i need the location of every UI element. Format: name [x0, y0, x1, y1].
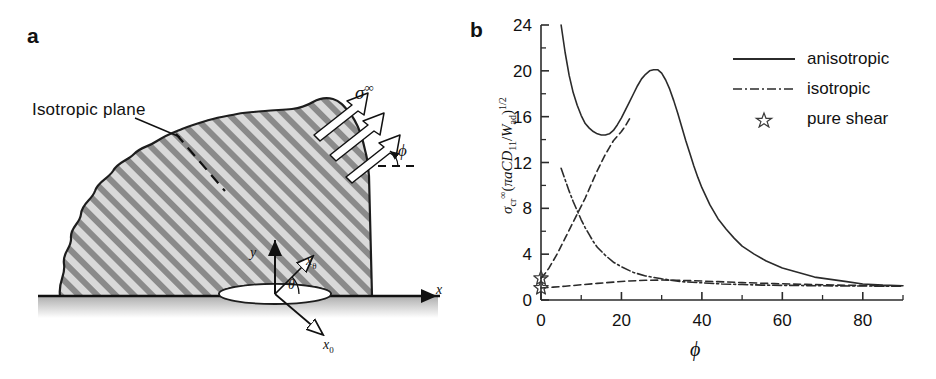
x-tick-label: 80: [853, 311, 872, 330]
series-isotropic-descending: [561, 168, 903, 286]
stress-symbol-label: σ∞: [355, 80, 374, 104]
y-tick-label: 16: [513, 108, 532, 127]
panel-a: a: [0, 0, 460, 379]
y-tick-label: 20: [513, 62, 532, 81]
x0-sub: 0: [329, 345, 334, 355]
figure-root: a: [0, 0, 936, 379]
phi-angle-label-a: ϕ: [398, 141, 407, 161]
legend-label-isotropic: isotropic: [807, 79, 870, 99]
sigma-glyph: σ: [355, 82, 364, 103]
panel-b: b σcr∞(πaCD11/Wad)1/2 048121620240204060…: [460, 0, 936, 379]
legend-key-dashdot: [733, 80, 795, 98]
x-theta-sub: θ: [312, 261, 316, 271]
isotropic-plane-leader: [135, 118, 180, 137]
legend-label-anisotropic: anisotropic: [807, 49, 889, 69]
y-tick-label: 8: [523, 199, 532, 218]
x0-axis-label-a: x0: [323, 337, 334, 355]
x-tick-label: 60: [773, 311, 792, 330]
panel-a-diagram: [0, 0, 460, 379]
legend-key-solid: [733, 50, 795, 68]
series-anisotropic-ascending-dashed: [541, 119, 629, 278]
x-tick-label: 40: [692, 311, 711, 330]
x-tick-label: 20: [612, 311, 631, 330]
y-tick-label: 12: [513, 154, 532, 173]
x-theta-axis-label-a: xθ: [306, 253, 317, 271]
y-tick-label: 0: [523, 291, 532, 310]
y-tick-label: 24: [513, 16, 532, 35]
legend-item-isotropic: isotropic: [733, 74, 889, 104]
legend-key-star: [733, 110, 795, 128]
theta-angle-label-a: θ: [288, 277, 295, 293]
x-tick-label: 0: [536, 311, 545, 330]
y-tick-label: 4: [523, 245, 532, 264]
y-axis-label-a: y: [250, 245, 256, 261]
x-axis-title: ϕ: [690, 338, 700, 361]
isotropic-plane-label: Isotropic plane: [32, 100, 146, 120]
legend-item-anisotropic: anisotropic: [733, 44, 889, 74]
chart-legend: anisotropic isotropic pure shear: [733, 44, 889, 134]
infinity-glyph: ∞: [364, 80, 373, 95]
legend-item-pure-shear: pure shear: [733, 104, 889, 134]
x-axis-label-a: x: [436, 282, 442, 298]
legend-label-pure-shear: pure shear: [807, 109, 888, 129]
